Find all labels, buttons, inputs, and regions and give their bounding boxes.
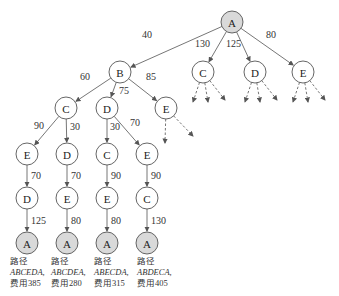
node-label: A — [228, 17, 236, 29]
edge-weight: 70 — [130, 117, 140, 128]
edge-weight: 60 — [80, 71, 90, 82]
edge-C2-D3a — [66, 119, 67, 142]
edge-weight: 90 — [34, 120, 44, 131]
node-label: D — [23, 193, 31, 205]
node-label: A — [23, 238, 31, 250]
node-a: A — [96, 232, 118, 254]
node-label: C — [143, 193, 150, 205]
node-d: D — [56, 143, 78, 165]
edge-weight: 130 — [151, 215, 166, 226]
edge-weight: 80 — [111, 215, 121, 226]
node-e: E — [292, 61, 314, 83]
edge-B1-D2 — [111, 82, 116, 96]
node-label: A — [63, 238, 71, 250]
node-label: C — [103, 149, 110, 161]
node-e: E — [96, 187, 118, 209]
node-d: D — [96, 97, 118, 119]
node-label: D — [63, 149, 71, 161]
node-c: C — [192, 61, 214, 83]
node-d: D — [16, 187, 38, 209]
unexpanded-branch — [205, 83, 208, 102]
search-tree-diagram: 4013012580607585903030707070909012580801… — [0, 0, 339, 296]
result-cost: 费用280 — [51, 278, 86, 289]
edge-weight: 40 — [142, 29, 152, 40]
result-label: 路径 — [94, 256, 129, 267]
unexpanded-branch — [305, 83, 308, 102]
node-label: E — [64, 193, 71, 205]
unexpanded-branch — [245, 82, 252, 102]
result-cost: 费用315 — [94, 278, 129, 289]
unexpanded-branch — [193, 82, 200, 102]
node-c: C — [136, 187, 158, 209]
node-label: E — [163, 103, 170, 115]
node-a: A — [136, 232, 158, 254]
node-label: E — [24, 149, 31, 161]
unexpanded-branches — [165, 81, 325, 143]
node-label: A — [103, 238, 111, 250]
unexpanded-branch — [262, 81, 277, 100]
node-label: C — [199, 67, 206, 79]
edge-weight: 70 — [31, 170, 41, 181]
node-e: E — [155, 97, 177, 119]
result-path: ABDECA, — [137, 267, 172, 278]
edge-weight: 90 — [151, 170, 161, 181]
unexpanded-branch — [165, 119, 166, 143]
node-a: A — [56, 232, 78, 254]
node-label: C — [62, 103, 69, 115]
edge-weight: 30 — [70, 121, 80, 132]
edge-weight: 80 — [71, 215, 81, 226]
node-e: E — [56, 187, 78, 209]
result-label: 路径 — [51, 256, 86, 267]
path-result: 路径ABDECA,费用405 — [137, 256, 172, 289]
unexpanded-branch — [293, 82, 300, 102]
edge-root-C1 — [209, 32, 226, 62]
node-c: C — [55, 97, 77, 119]
result-cost: 费用385 — [10, 278, 45, 289]
edge-B1-E2 — [129, 79, 157, 101]
unexpanded-branch — [310, 81, 325, 100]
edge-weight: 75 — [119, 85, 129, 96]
node-label: B — [116, 67, 123, 79]
edge-weight: 125 — [31, 215, 46, 226]
node-a: A — [16, 232, 38, 254]
result-cost: 费用405 — [137, 278, 172, 289]
edge-weight: 125 — [226, 38, 241, 49]
edge-weight: 30 — [110, 121, 120, 132]
unexpanded-branch — [210, 81, 225, 100]
path-result: 路径ABECDA,费用315 — [94, 256, 129, 289]
edge-weight: 130 — [195, 38, 210, 49]
node-label: E — [144, 149, 151, 161]
node-e: E — [136, 143, 158, 165]
result-path: ABCDEA, — [51, 267, 86, 278]
result-label: 路径 — [137, 256, 172, 267]
path-result: 路径ABCDEA,费用280 — [51, 256, 86, 289]
node-label: E — [104, 193, 111, 205]
edge-weight: 70 — [71, 170, 81, 181]
result-label: 路径 — [10, 256, 45, 267]
edge-weight: 90 — [111, 170, 121, 181]
edge-weight: 80 — [266, 29, 276, 40]
node-label: A — [143, 238, 151, 250]
node-a: A — [221, 11, 243, 33]
node-label: D — [103, 103, 111, 115]
result-path: ABECDA, — [94, 267, 129, 278]
unexpanded-branch — [257, 83, 260, 102]
edge-weight: 85 — [146, 71, 156, 82]
node-e: E — [16, 143, 38, 165]
path-result: 路径ABCEDA,费用385 — [10, 256, 45, 289]
node-label: D — [251, 67, 259, 79]
result-path: ABCEDA, — [10, 267, 45, 278]
unexpanded-branch — [174, 116, 193, 136]
node-b: B — [109, 61, 131, 83]
node-label: E — [300, 67, 307, 79]
node-c: C — [96, 143, 118, 165]
node-d: D — [244, 61, 266, 83]
